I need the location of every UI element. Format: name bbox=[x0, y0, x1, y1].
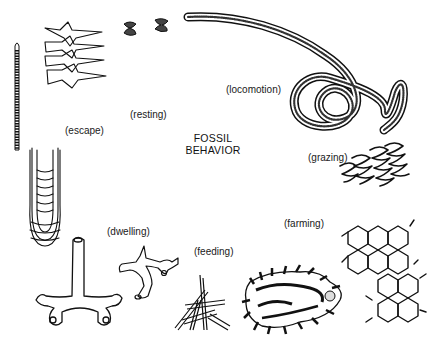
diagram-title: FOSSIL BEHAVIOR bbox=[178, 132, 248, 156]
resting-star-traces-icon bbox=[45, 22, 106, 88]
title-line-1: FOSSIL bbox=[178, 132, 248, 144]
label-feeding: (feeding) bbox=[194, 246, 233, 257]
label-farming: (farming) bbox=[284, 218, 324, 229]
locomotion-trail-icon bbox=[188, 17, 403, 130]
grazing-meander-icon bbox=[340, 143, 409, 186]
dwelling-large-burrow-icon bbox=[36, 238, 122, 326]
feeding-branching-burrow-icon bbox=[175, 275, 230, 330]
illustrations bbox=[0, 0, 434, 346]
farming-branching-pattern-icon bbox=[242, 265, 341, 334]
label-dwelling: (dwelling) bbox=[107, 226, 150, 237]
dwelling-small-burrow-icon bbox=[119, 246, 178, 299]
fossil-behavior-diagram: (resting) (locomotion) (escape) (grazing… bbox=[0, 0, 434, 346]
escape-vertical-burrow-icon bbox=[15, 43, 19, 150]
resting-bilobed-traces-icon bbox=[124, 19, 168, 36]
title-line-2: BEHAVIOR bbox=[178, 144, 248, 156]
farming-hexagonal-network-icon bbox=[342, 220, 426, 322]
label-grazing: (grazing) bbox=[308, 152, 347, 163]
label-locomotion: (locomotion) bbox=[226, 84, 281, 95]
escape-u-burrow-icon bbox=[30, 148, 60, 246]
label-resting: (resting) bbox=[130, 109, 167, 120]
label-escape: (escape) bbox=[65, 125, 104, 136]
